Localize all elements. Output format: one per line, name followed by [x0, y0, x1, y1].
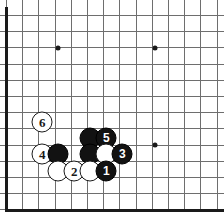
grid-line-vertical — [22, 0, 23, 211]
grid-line-vertical — [217, 0, 218, 211]
grid-line-horizontal — [0, 64, 224, 65]
go-board-diagram: 654321 — [0, 0, 224, 216]
grid-line-vertical — [152, 0, 153, 211]
grid-line-horizontal — [0, 15, 224, 16]
grid-line-horizontal — [0, 193, 224, 194]
star-point-upper-right — [153, 46, 158, 51]
stone-move-number: 2 — [71, 164, 77, 177]
board-edge-bottom — [5, 209, 224, 212]
board-edge-left — [5, 7, 8, 212]
stone-move-number: 4 — [39, 147, 45, 160]
stone-move-number: 5 — [103, 132, 109, 144]
grid-line-horizontal — [0, 80, 224, 81]
grid-line-horizontal — [0, 112, 224, 113]
grid-line-horizontal — [0, 31, 224, 32]
star-point-upper-left — [56, 46, 61, 51]
stone-black-1: 1 — [96, 161, 117, 182]
grid-line-vertical — [38, 0, 39, 211]
star-point-lower-right — [153, 143, 158, 148]
stone-move-number: 3 — [119, 148, 125, 160]
stone-move-number: 6 — [39, 115, 45, 128]
grid-line-vertical — [184, 0, 185, 211]
stone-white-6: 6 — [32, 112, 53, 133]
stone-move-number: 1 — [103, 165, 109, 177]
grid-line-horizontal — [0, 47, 224, 48]
grid-line-vertical — [136, 0, 137, 211]
grid-line-vertical — [200, 0, 201, 211]
grid-line-vertical — [168, 0, 169, 211]
grid-line-vertical — [119, 0, 120, 211]
stone-black-3: 3 — [112, 144, 133, 165]
grid-line-horizontal — [0, 96, 224, 97]
